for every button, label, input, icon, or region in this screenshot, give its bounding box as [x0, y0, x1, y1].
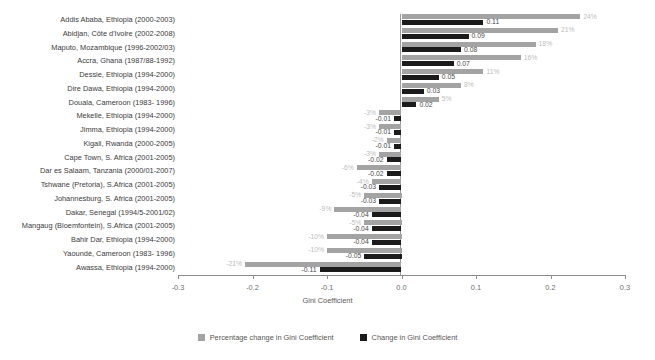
bar-gini-change [379, 185, 401, 190]
bar-value-label-percentage: 8% [464, 82, 474, 89]
bar-value-label-gini: 0.03 [427, 88, 440, 95]
category-label: Addis Ababa, Ethiopia (2000-2003) [60, 16, 175, 23]
bar-value-label-gini: -0.04 [353, 226, 369, 233]
legend-item: Change in Gini Coefficient [360, 333, 458, 342]
bar-value-label-gini: 0.09 [472, 33, 485, 40]
bar-value-label-percentage: -9% [319, 206, 331, 213]
category-label: Dakar, Senegal (1994/5-2001/02) [66, 209, 175, 216]
category-label: Abidjan, Côte d'Ivoire (2002-2008) [63, 30, 175, 37]
bar-value-label-percentage: -5% [349, 192, 361, 199]
bar-gini-change [387, 171, 402, 176]
bar-value-label-gini: -0.11 [302, 267, 317, 274]
category-label: Mangaug (Bloemfontein), S.Africa (2001-2… [22, 222, 175, 229]
x-axis-tick [327, 275, 328, 279]
bar-gini-change [364, 254, 401, 259]
x-axis-tick [178, 275, 179, 279]
category-label: Awassa, Ethiopia (1994-2000) [76, 264, 175, 271]
legend-label: Change in Gini Coefficient [372, 333, 458, 342]
bar-value-label-gini: -0.02 [368, 157, 384, 164]
category-label: Kigali, Rwanda (2000-2005) [83, 140, 175, 147]
bar-value-label-gini: -0.04 [353, 239, 369, 246]
legend-label: Percentage change in Gini Coefficient [210, 333, 334, 342]
category-label: Dessie, Ethiopia (1994-2000) [79, 71, 175, 78]
x-axis-tick-label: -0.2 [246, 283, 259, 292]
legend-swatch-icon [198, 334, 205, 341]
bar-gini-change [402, 102, 417, 107]
bar-value-label-gini: -0.05 [346, 253, 362, 260]
bar-value-label-percentage: -10% [308, 247, 324, 254]
x-axis-tick-label: 0.2 [545, 283, 555, 292]
bar-percentage-change [245, 262, 401, 267]
bar-gini-change [387, 157, 402, 162]
category-label: Mekelle, Ethiopia (1994-2000) [76, 112, 175, 119]
bar-value-label-gini: -0.02 [368, 171, 384, 178]
bar-value-label-percentage: 11% [486, 69, 499, 76]
gini-change-chart: -0.3-0.2-0.10.00.10.20.3Addis Ababa, Eth… [0, 0, 655, 360]
bar-value-label-gini: -0.03 [361, 184, 377, 191]
bar-value-label-percentage: 21% [561, 27, 575, 34]
bar-value-label-percentage: -3% [364, 110, 376, 117]
bar-value-label-percentage: -3% [364, 124, 376, 131]
x-axis-title: Gini Coefficient [0, 296, 655, 305]
bar-gini-change [394, 144, 401, 149]
bar-value-label-gini: 0.08 [464, 47, 477, 54]
bar-value-label-percentage: -6% [342, 165, 354, 172]
x-axis-tick [253, 275, 254, 279]
bar-gini-change [372, 240, 402, 245]
category-label: Jimma, Ethiopia (1994-2000) [80, 126, 175, 133]
bar-value-label-percentage: 18% [539, 41, 553, 48]
bar-value-label-percentage: 5% [442, 96, 452, 103]
category-label: Bahir Dar, Ethiopia (1994-2000) [71, 236, 175, 243]
bar-percentage-change [364, 220, 401, 225]
bar-gini-change [402, 34, 469, 39]
bar-gini-change [394, 130, 401, 135]
chart-legend: Percentage change in Gini CoefficientCha… [0, 333, 655, 342]
category-label: Dire Dawa, Ethiopia (1994-2000) [67, 85, 175, 92]
bar-value-label-gini: -0.01 [376, 116, 392, 123]
x-axis-tick [625, 275, 626, 279]
bar-value-label-gini: -0.03 [361, 198, 377, 205]
x-axis-tick [402, 275, 403, 279]
bar-value-label-gini: -0.04 [353, 212, 369, 219]
legend-item: Percentage change in Gini Coefficient [198, 333, 334, 342]
bar-value-label-percentage: 16% [524, 55, 538, 62]
bar-value-label-gini: 0.11 [486, 19, 499, 26]
x-axis-tick [551, 275, 552, 279]
bar-gini-change [372, 226, 402, 231]
bar-gini-change [379, 199, 401, 204]
bar-gini-change [402, 89, 424, 94]
category-label: Tshwane (Pretoria), S.Africa (2001-2005) [41, 181, 175, 188]
x-axis-tick-label: -0.1 [321, 283, 334, 292]
bar-value-label-percentage: -10% [308, 234, 324, 241]
bar-gini-change [372, 212, 402, 217]
bar-gini-change [402, 47, 462, 52]
category-label: Cape Town, S. Africa (2001-2005) [64, 154, 175, 161]
x-axis-tick-label: 0.1 [471, 283, 481, 292]
bar-gini-change [394, 116, 401, 121]
category-label: Dar es Salaam, Tanzania (2000/01-2007) [40, 167, 175, 174]
bar-gini-change [402, 20, 484, 25]
bar-value-label-gini: 0.05 [442, 74, 455, 81]
x-axis-tick-label: 0.3 [620, 283, 630, 292]
bar-value-label-gini: -0.01 [376, 143, 392, 150]
bar-percentage-change [327, 248, 402, 253]
category-label: Douala, Cameroon (1983- 1996) [69, 99, 175, 106]
category-label: Maputo, Mozambique (1996-2002/03) [51, 44, 175, 51]
x-axis-tick [476, 275, 477, 279]
category-label: Yaoundé, Cameroon (1983- 1996) [63, 250, 175, 257]
bar-value-label-gini: 0.07 [457, 61, 470, 68]
category-label: Accra, Ghana (1987/88-1992) [77, 57, 175, 64]
bar-value-label-gini: 0.02 [419, 102, 432, 109]
category-label: Johannesburg, S. Africa (2001-2005) [54, 195, 175, 202]
bar-gini-change [402, 61, 454, 66]
x-axis-tick-label: -0.3 [172, 283, 185, 292]
bar-value-label-gini: -0.01 [376, 129, 392, 136]
bar-gini-change [320, 267, 402, 272]
plot-area: -0.3-0.2-0.10.00.10.20.3Addis Ababa, Eth… [0, 0, 655, 360]
bar-value-label-percentage: -21% [226, 261, 242, 268]
x-axis-tick-label: 0.0 [396, 283, 406, 292]
bar-gini-change [402, 75, 439, 80]
legend-swatch-icon [360, 334, 367, 341]
bar-value-label-percentage: 24% [583, 14, 597, 21]
